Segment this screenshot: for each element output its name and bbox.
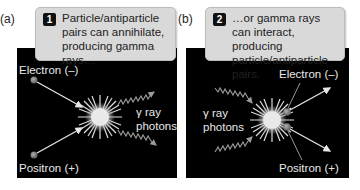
panel-b-positron-label: Positron (+): [279, 162, 339, 175]
panel-b-electron-label: Electron (–): [279, 68, 338, 81]
panel-a-electron-label: Electron (–): [19, 64, 78, 77]
panel-b-callout: 2 …or gamma rays can interact, producing…: [205, 7, 345, 61]
panel-b-photon-label-line2: photons: [203, 121, 244, 134]
positron-dot-icon: [31, 152, 38, 159]
positron-dot-icon: [283, 123, 291, 131]
panel-b-photon-label-line1: γ ray: [203, 107, 228, 120]
annihilation-starburst-icon: [78, 95, 122, 139]
gamma-ray-in-bottom-icon: [215, 137, 252, 152]
panel-a-photon-label-line1: γ ray: [136, 106, 161, 119]
panel-a-positron-label: Positron (+): [19, 162, 79, 175]
gamma-ray-in-top-icon: [215, 88, 252, 103]
electron-dot-icon: [283, 108, 291, 116]
panel-a-caption: Particle/antiparticle pairs can annihila…: [62, 12, 164, 66]
step-2-badge: 2: [213, 13, 226, 26]
step-1-badge: 1: [43, 13, 56, 26]
electron-dot-icon: [31, 77, 38, 84]
panel-a-photon-label-line2: photons: [136, 120, 177, 133]
gamma-ray-up-icon: [118, 92, 154, 105]
panel-a-callout: 1 Particle/antiparticle pairs can annihi…: [35, 7, 176, 61]
pair-production-starburst-icon: [250, 98, 294, 142]
